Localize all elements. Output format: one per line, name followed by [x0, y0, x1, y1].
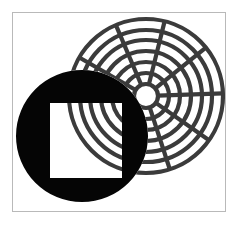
- abstract-geometric-figure: [0, 0, 238, 226]
- radial-spoke-5: [158, 93, 223, 95]
- figure-container: [0, 0, 238, 226]
